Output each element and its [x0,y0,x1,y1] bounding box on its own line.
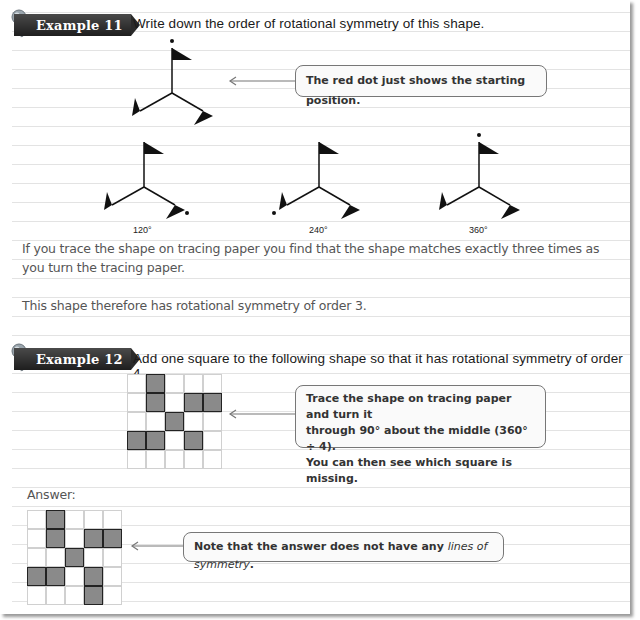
empty-square [103,586,122,605]
explanation-line-2: you turn the tracing paper. [22,260,185,275]
empty-square [103,548,122,567]
filled-square [84,529,103,548]
empty-square [184,374,203,393]
filled-square [165,412,184,431]
empty-square [65,510,84,529]
arrow-left-icon [230,410,295,418]
empty-square [127,393,146,412]
filled-square [184,393,203,412]
question-grid [127,374,222,469]
tracing-hint-callout: Trace the shape on tracing paper and tur… [295,385,546,448]
filled-square [46,567,65,586]
empty-square [65,529,84,548]
empty-square [65,567,84,586]
filled-square [27,567,46,586]
filled-square [103,529,122,548]
worksheet-page: Example 11 Write down the order of rotat… [0,0,630,614]
callout-text: Note that the answer does not have any [194,540,448,553]
filled-square [46,510,65,529]
filled-square [203,393,222,412]
empty-square [203,374,222,393]
conclusion-text: This shape therefore has rotational symm… [22,298,366,313]
callout-line: You can then see which square is missing… [306,455,535,487]
empty-square [127,374,146,393]
empty-square [84,510,103,529]
arrow-left-icon [230,77,295,85]
empty-square [103,510,122,529]
empty-square [165,431,184,450]
badge-label: Example 12 [14,348,131,370]
flag-shape-240 [272,142,360,219]
empty-square [165,450,184,469]
empty-square [146,450,165,469]
callout-text: . [250,558,254,571]
empty-square [103,567,122,586]
answer-label: Answer: [27,487,76,502]
empty-square [165,374,184,393]
empty-square [27,548,46,567]
filled-square [46,529,65,548]
filled-square [65,548,84,567]
flag-shape-original [132,39,213,125]
flag-shape-120 [104,142,189,219]
flag-shape-360 [439,133,520,219]
empty-square [184,412,203,431]
empty-square [65,586,84,605]
empty-square [203,431,222,450]
starting-position-callout: The red dot just shows the starting posi… [295,65,547,97]
filled-square [84,567,103,586]
filled-square [84,586,103,605]
filled-square [127,431,146,450]
empty-square [46,586,65,605]
empty-square [27,529,46,548]
empty-square [27,586,46,605]
empty-square [203,412,222,431]
empty-square [203,450,222,469]
empty-square [127,450,146,469]
no-symmetry-callout: Note that the answer does not have any l… [183,532,504,562]
rotation-label-240: 240° [309,225,328,235]
answer-grid [27,510,122,605]
empty-square [165,393,184,412]
empty-square [84,548,103,567]
empty-square [146,412,165,431]
callout-line: through 90° about the middle (360° ÷ 4). [306,423,535,455]
empty-square [127,412,146,431]
filled-square [146,393,165,412]
filled-square [184,431,203,450]
filled-square [146,431,165,450]
filled-square [146,374,165,393]
empty-square [184,450,203,469]
explanation-line-1: If you trace the shape on tracing paper … [22,241,599,256]
empty-square [27,510,46,529]
empty-square [46,548,65,567]
callout-line: Trace the shape on tracing paper and tur… [306,391,535,423]
example-12-badge: Example 12 [14,347,131,371]
rotation-label-120: 120° [133,225,152,235]
rotation-label-360: 360° [469,225,488,235]
arrow-left-icon [132,542,183,550]
